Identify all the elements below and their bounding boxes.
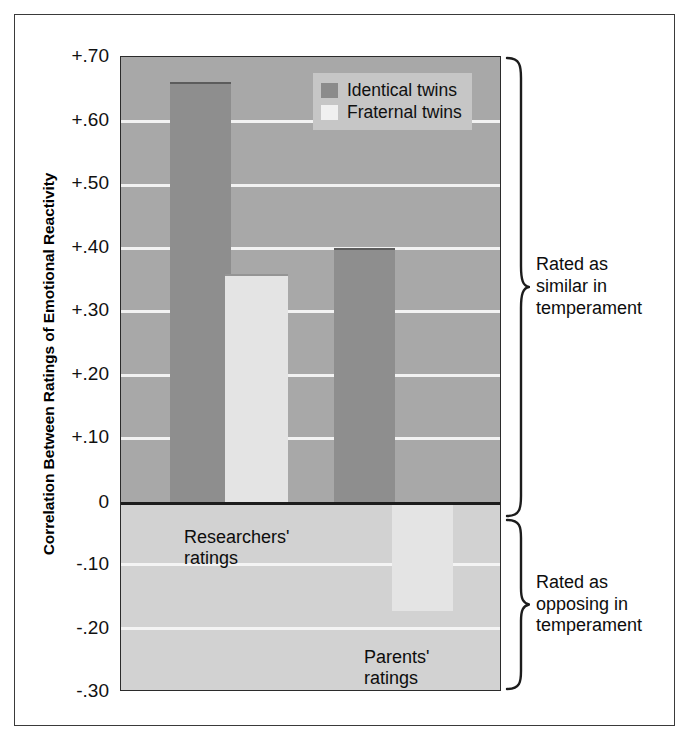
y-tick-3: +.40 <box>45 236 109 258</box>
y-axis-tick-labels: +.70 +.60 +.50 +.40 +.30 +.20 +.10 0 -.1… <box>39 56 109 691</box>
bar-cap <box>225 274 288 276</box>
legend: Identical twins Fraternal twins <box>313 73 472 130</box>
bar-identical-researchers <box>170 82 231 501</box>
bar-identical-parents <box>334 248 395 501</box>
bar-cap <box>334 248 395 250</box>
legend-swatch-fraternal <box>321 105 338 120</box>
y-tick-9: -.20 <box>45 617 109 639</box>
y-tick-1: +.60 <box>45 109 109 131</box>
plot-area: Researchers' ratings Parents' ratings Id… <box>120 56 501 691</box>
legend-label-identical: Identical twins <box>347 80 457 101</box>
annotation-rated-similar: Rated as similar in temperament <box>504 56 642 518</box>
annotation-opposing-text: Rated as opposing in temperament <box>536 572 642 638</box>
legend-swatch-identical <box>321 83 338 98</box>
legend-item-fraternal-twins: Fraternal twins <box>321 101 462 123</box>
y-tick-7: 0 <box>45 491 109 513</box>
legend-label-fraternal: Fraternal twins <box>347 102 462 123</box>
group-label-parents: Parents' ratings <box>364 647 429 689</box>
annotation-similar-text: Rated as similar in temperament <box>536 254 642 320</box>
y-tick-2: +.50 <box>45 172 109 194</box>
figure-frame: Correlation Between Ratings of Emotional… <box>14 14 675 726</box>
legend-item-identical-twins: Identical twins <box>321 79 462 101</box>
group-label-researchers: Researchers' ratings <box>184 527 289 569</box>
y-tick-6: +.10 <box>45 426 109 448</box>
y-tick-5: +.20 <box>45 363 109 385</box>
y-tick-10: -.30 <box>45 680 109 702</box>
bar-cap <box>170 82 231 84</box>
gridline-neg020 <box>121 627 500 630</box>
curly-brace-icon <box>504 56 530 518</box>
bar-fraternal-researchers <box>225 274 288 502</box>
zero-baseline <box>121 502 500 505</box>
y-tick-0: +.70 <box>45 45 109 67</box>
bar-fraternal-parents <box>392 502 453 612</box>
y-tick-4: +.30 <box>45 299 109 321</box>
annotation-rated-opposing: Rated as opposing in temperament <box>504 518 642 691</box>
curly-brace-icon <box>504 518 530 691</box>
y-tick-8: -.10 <box>45 553 109 575</box>
